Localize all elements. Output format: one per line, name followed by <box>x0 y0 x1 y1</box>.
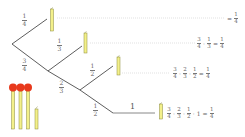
match-stick-leaf-3 <box>117 56 120 76</box>
branch-label-1-4: 14 <box>22 13 27 27</box>
branch-label-1-2-up: 12 <box>90 63 95 77</box>
match-stick-leaf-4 <box>160 103 163 120</box>
full-match-3 <box>24 84 32 130</box>
branch-root-down <box>12 44 48 71</box>
branch-label-2-3: 23 <box>59 80 64 94</box>
result-row-3: 34 · 23 · 12 = 14 <box>173 67 210 80</box>
full-match-2 <box>17 84 25 130</box>
broken-match <box>35 107 38 130</box>
branch-label-1: 1 <box>130 102 135 111</box>
result-2: 14 <box>220 37 224 50</box>
match-stick-leaf-1 <box>51 8 54 32</box>
match-stick-leaf-2 <box>84 32 87 54</box>
result-row-4: 34 · 23 · 12 · 1 = 14 <box>167 107 214 120</box>
branch-2-down <box>48 71 80 90</box>
result-row-1: = 14 <box>227 12 238 25</box>
branch-root-up <box>12 19 47 44</box>
branch-3-up <box>80 66 113 90</box>
branch-2-up <box>48 46 82 71</box>
full-match-1 <box>9 84 17 130</box>
branch-label-1-3: 13 <box>57 38 62 52</box>
result-3: 14 <box>206 67 210 80</box>
branch-label-1-2-down: 12 <box>93 103 98 117</box>
result-1: 14 <box>234 12 238 25</box>
result-row-2: 34 · 13 = 14 <box>197 37 224 50</box>
branch-label-3-4: 34 <box>22 58 27 72</box>
result-4: 14 <box>210 107 214 120</box>
